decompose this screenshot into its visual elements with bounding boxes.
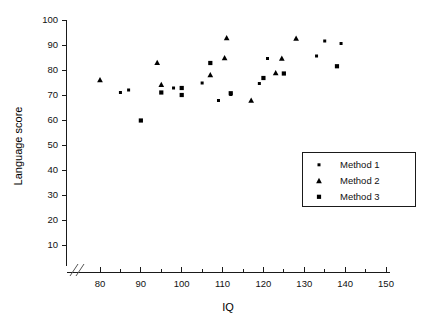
y-tick-label: 100 — [42, 14, 58, 25]
y-tick-label: 70 — [47, 89, 58, 100]
data-point — [335, 64, 339, 68]
chart-canvas: 102030405060708090100 809010011012013014… — [0, 0, 427, 329]
axis-break-marks — [70, 264, 84, 276]
data-point — [293, 35, 299, 40]
x-tick-label: 100 — [174, 278, 190, 289]
data-point — [248, 97, 254, 102]
data-point — [279, 55, 285, 60]
legend-label-3: Method 3 — [340, 191, 380, 202]
data-point — [222, 55, 228, 60]
x-axis-title: IQ — [222, 301, 234, 313]
x-tick-label: 140 — [337, 278, 353, 289]
data-point — [119, 91, 122, 94]
data-point — [208, 61, 212, 65]
legend-marker-1 — [318, 163, 321, 166]
data-point — [154, 60, 160, 65]
data-points-layer — [97, 35, 342, 123]
data-point — [273, 70, 279, 75]
x-axis-ticks: 8090100110120130140150 — [95, 267, 394, 289]
data-point — [282, 71, 286, 75]
y-tick-label: 30 — [47, 189, 58, 200]
data-point — [315, 55, 318, 58]
data-point — [258, 82, 261, 85]
legend-label-2: Method 2 — [340, 175, 380, 186]
data-point — [266, 57, 269, 60]
data-point — [97, 77, 103, 82]
data-point — [180, 93, 184, 97]
data-point — [323, 40, 326, 43]
data-point — [158, 82, 164, 87]
scatter-plot-figure: 102030405060708090100 809010011012013014… — [0, 0, 427, 329]
y-tick-label: 80 — [47, 64, 58, 75]
axis-group — [67, 20, 391, 276]
series-method-2 — [97, 35, 299, 103]
x-tick-label: 110 — [215, 278, 230, 289]
x-tick-label: 80 — [95, 278, 106, 289]
y-axis-ticks: 102030405060708090100 — [42, 14, 66, 250]
y-tick-label: 50 — [47, 139, 58, 150]
data-point — [172, 87, 175, 90]
y-tick-label: 40 — [47, 164, 58, 175]
data-point — [207, 72, 213, 77]
x-tick-label: 150 — [378, 278, 394, 289]
x-tick-label: 120 — [255, 278, 271, 289]
series-method-3 — [139, 61, 339, 123]
legend-marker-3 — [317, 195, 321, 199]
data-point — [261, 76, 265, 80]
legend: Method 1Method 2Method 3 — [303, 153, 416, 207]
x-tick-label: 130 — [296, 278, 312, 289]
y-tick-label: 10 — [47, 239, 58, 250]
data-point — [224, 35, 230, 40]
data-point — [180, 86, 184, 90]
data-point — [127, 89, 130, 92]
y-tick-label: 90 — [47, 39, 58, 50]
y-axis-title: Language score — [12, 107, 24, 186]
y-tick-label: 60 — [47, 114, 58, 125]
x-tick-label: 90 — [136, 278, 147, 289]
data-point — [229, 91, 233, 95]
data-point — [340, 42, 343, 45]
data-point — [139, 118, 143, 122]
data-point — [201, 82, 204, 85]
data-point — [217, 99, 220, 102]
data-point — [159, 90, 163, 94]
legend-label-1: Method 1 — [340, 159, 380, 170]
y-tick-label: 20 — [47, 214, 58, 225]
